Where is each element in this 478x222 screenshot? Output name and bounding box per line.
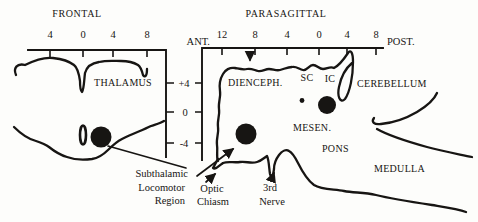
frontal-tick-label: 8 xyxy=(144,29,149,40)
parasagittal-tick-label: 4 xyxy=(344,29,350,40)
optic-chiasm-label-line1: Optic xyxy=(200,183,224,194)
parasagittal-axis-frame xyxy=(202,48,383,160)
optic-chiasm-arrow xyxy=(206,174,215,182)
subthalamic-region-dot-frontal xyxy=(91,127,112,148)
figure-canvas: FRONTAL 4 0 4 8 +4 0 -4 THALAMUS Subthal… xyxy=(0,0,478,222)
frontal-tick-label: 0 xyxy=(80,29,85,40)
frontal-tick-label: 4 xyxy=(47,29,53,40)
parasagittal-tick-label: 12 xyxy=(217,29,228,40)
frontal-y-ticks xyxy=(166,83,174,143)
frontal-base-outline xyxy=(14,121,164,160)
y-tick-label: -4 xyxy=(180,138,189,149)
ic-label: IC xyxy=(325,73,336,84)
parasagittal-tick-label: 8 xyxy=(373,29,378,40)
frontal-tick-label: 4 xyxy=(110,29,116,40)
medulla-label: MEDULLA xyxy=(374,163,425,174)
optic-chiasm-label-line2: Chiasm xyxy=(197,196,229,207)
subthalamic-label-line2: Locomotor xyxy=(138,182,185,193)
third-nerve-label-line1: 3rd xyxy=(263,182,278,193)
parasagittal-tick-label: 8 xyxy=(252,29,257,40)
sc-label: SC xyxy=(301,72,314,83)
parasagittal-tick-label: 4 xyxy=(284,29,290,40)
parasagittal-y-ticks xyxy=(195,83,202,143)
parasagittal-tick-label: 0 xyxy=(316,29,321,40)
thalamus-label: THALAMUS xyxy=(94,77,152,88)
mesencephalic-region-dot xyxy=(318,96,336,114)
brain-sections-figure: FRONTAL 4 0 4 8 +4 0 -4 THALAMUS Subthal… xyxy=(0,0,478,222)
diencephalon-label: DIENCEPH. xyxy=(228,77,283,88)
parasagittal-title: PARASAGITTAL xyxy=(245,8,326,19)
frontal-title: FRONTAL xyxy=(52,8,102,19)
cerebellum-medulla-upper-curve xyxy=(373,93,437,124)
brainstem-ventral-outline xyxy=(213,150,466,212)
mesencephalon-label: MESEN. xyxy=(293,122,331,133)
subthalamic-region-dot-parasagittal xyxy=(236,124,257,145)
small-marker-dot xyxy=(300,98,305,103)
ant-label: ANT. xyxy=(187,36,210,47)
third-nerve-label-line2: Nerve xyxy=(259,196,285,207)
pons-label: PONS xyxy=(322,143,349,154)
tract-ring xyxy=(80,126,86,145)
y-tick-label: +4 xyxy=(178,78,190,89)
cerebellum-label: CEREBELLUM xyxy=(357,78,427,89)
subthalamic-pointer-left xyxy=(108,146,186,168)
subthalamic-label-line3: Region xyxy=(155,195,186,206)
cerebellum-medulla-lower-curve xyxy=(377,129,472,157)
y-tick-label: 0 xyxy=(182,107,187,118)
post-label: POST. xyxy=(387,36,415,47)
subthalamic-label-line1: Subthalamic xyxy=(136,168,189,179)
frontal-axis-ticks xyxy=(50,50,147,57)
